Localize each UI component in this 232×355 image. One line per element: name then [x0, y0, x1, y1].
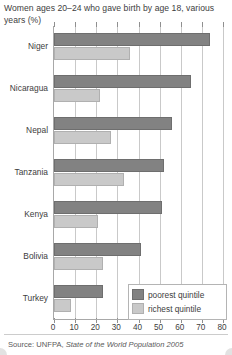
gridline: [223, 26, 224, 319]
chart-title: Women ages 20–24 who gave birth by age 1…: [4, 3, 228, 26]
bar-richest-bolivia: [54, 257, 103, 270]
source-publication: State of the World Population 2005: [66, 340, 184, 349]
bar-richest-kenya: [54, 215, 98, 228]
bar-richest-tanzania: [54, 173, 124, 186]
chart-figure: Women ages 20–24 who gave birth by age 1…: [0, 0, 232, 355]
x-tick-label: 20: [91, 323, 100, 332]
category-label-niger: Niger: [0, 41, 48, 51]
plot-area: [53, 26, 222, 319]
gridline: [160, 26, 161, 319]
gridline: [139, 26, 140, 319]
x-tick-label: 10: [70, 323, 79, 332]
legend-swatch-icon-richest: [132, 303, 144, 314]
bar-poorest-kenya: [54, 201, 162, 214]
axis-tick: [139, 22, 140, 27]
bar-poorest-turkey: [54, 285, 103, 298]
axis-tick: [117, 22, 118, 27]
source-divider: [4, 334, 228, 335]
axis-tick: [181, 22, 182, 27]
x-tick-label: 0: [51, 323, 56, 332]
category-label-tanzania: Tanzania: [0, 167, 48, 177]
axis-tick: [75, 22, 76, 27]
axis-tick: [223, 22, 224, 27]
x-tick-label: 80: [217, 323, 226, 332]
bar-poorest-nepal: [54, 117, 172, 130]
x-tick-label: 50: [154, 323, 163, 332]
gridline: [202, 26, 203, 319]
legend-item-richest: richest quintile: [132, 302, 223, 315]
category-label-bolivia: Bolivia: [0, 251, 48, 261]
x-tick-label: 30: [112, 323, 121, 332]
legend-label-richest: richest quintile: [148, 304, 201, 314]
axis-tick: [202, 22, 203, 27]
axis-tick: [96, 22, 97, 27]
axis-tick: [54, 22, 55, 27]
bar-richest-nepal: [54, 131, 111, 144]
corner-decoration-right: [225, 348, 232, 355]
bar-poorest-bolivia: [54, 243, 141, 256]
category-axis-labels: NigerNicaraguaNepalTanzaniaKenyaBoliviaT…: [0, 26, 50, 319]
legend-label-poorest: poorest quintile: [148, 290, 204, 300]
category-label-turkey: Turkey: [0, 293, 48, 303]
bar-richest-turkey: [54, 299, 71, 312]
x-tick-label: 40: [133, 323, 142, 332]
axis-tick: [160, 22, 161, 27]
corner-decoration-left: [0, 348, 7, 355]
legend-item-poorest: poorest quintile: [132, 288, 223, 301]
bar-poorest-tanzania: [54, 159, 164, 172]
bar-poorest-niger: [54, 33, 210, 46]
source-prefix: Source: UNFPA,: [8, 340, 66, 349]
x-tick-label: 60: [175, 323, 184, 332]
category-label-kenya: Kenya: [0, 209, 48, 219]
bar-richest-nicaragua: [54, 89, 100, 102]
category-label-nicaragua: Nicaragua: [0, 83, 48, 93]
gridline: [181, 26, 182, 319]
source-note: Source: UNFPA, State of the World Popula…: [8, 340, 183, 349]
bar-richest-niger: [54, 47, 130, 60]
x-tick-label: 70: [196, 323, 205, 332]
chart-legend: poorest quintile richest quintile: [128, 284, 227, 320]
bar-poorest-nicaragua: [54, 75, 191, 88]
category-label-nepal: Nepal: [0, 125, 48, 135]
legend-swatch-icon-poorest: [132, 289, 144, 300]
